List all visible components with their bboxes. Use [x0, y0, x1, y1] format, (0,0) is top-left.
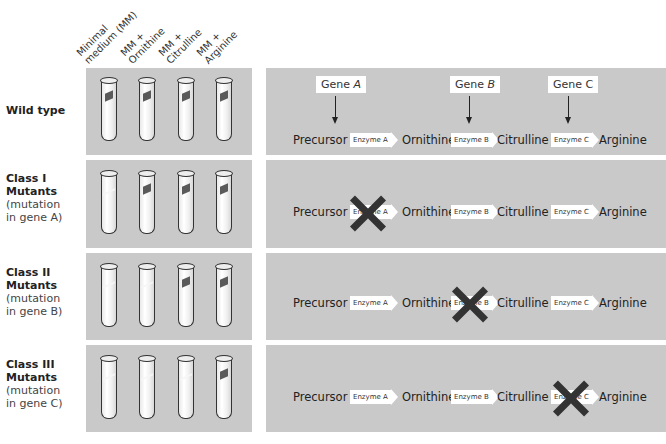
compound-precursor: Precursor: [293, 133, 347, 147]
test-tube-growth: [216, 266, 232, 327]
compound-citrulline: Citrulline: [497, 205, 549, 219]
enzyme-label: Enzyme A: [350, 296, 391, 310]
enzyme-c-arrow: Enzyme C: [551, 296, 599, 310]
test-tube-growth: [139, 80, 155, 141]
compound-citrulline: Citrulline: [497, 296, 549, 310]
compound-ornithine: Ornithine: [402, 205, 455, 219]
compound-precursor: Precursor: [293, 296, 347, 310]
gene-c-label: Gene C: [548, 76, 598, 93]
row-title: Wild type: [6, 104, 84, 117]
test-tube-growth: [101, 80, 117, 141]
enzyme-label: Enzyme C: [551, 296, 592, 310]
arrow-down-icon: [568, 96, 569, 122]
enzyme-a-arrow: Enzyme A: [350, 296, 398, 310]
test-tube-growth: [139, 173, 155, 234]
growth-band: [182, 90, 190, 102]
growth-band: [220, 183, 228, 195]
row-title: Class II: [6, 266, 84, 279]
enzyme-a-arrow: Enzyme A: [350, 390, 398, 404]
test-tube-no-growth: [178, 358, 194, 419]
row-label-class-2: Class II Mutants (mutation in gene B): [6, 266, 84, 318]
medium-column-headers: Minimal medium (MM) MM + Ornithine MM + …: [86, 0, 256, 66]
test-tube-growth: [178, 80, 194, 141]
compound-precursor: Precursor: [293, 390, 347, 404]
row-note: in gene B): [6, 305, 84, 318]
gene-b-label: Gene B: [450, 76, 500, 93]
compound-ornithine: Ornithine: [402, 296, 455, 310]
enzyme-b-arrow: Enzyme B: [451, 133, 499, 147]
compound-citrulline: Citrulline: [497, 390, 549, 404]
enzyme-label: Enzyme B: [451, 390, 492, 404]
tube-panel-class-2: [86, 253, 252, 340]
row-note: in gene A): [6, 211, 84, 224]
enzyme-label: Enzyme A: [350, 133, 391, 147]
test-tube-growth: [216, 80, 232, 141]
arrow-down-icon: [335, 96, 336, 122]
enzyme-a-arrow: Enzyme A: [350, 133, 398, 147]
growth-band: [220, 276, 228, 288]
arrow-down-icon: [469, 96, 470, 122]
tube-panel-class-1: [86, 160, 252, 248]
row-label-class-3: Class III Mutants (mutation in gene C): [6, 358, 84, 410]
pathway-panel-class-1: Precursor Enzyme A Ornithine Enzyme B Ci…: [266, 160, 666, 248]
growth-band: [182, 183, 190, 195]
test-tube-no-growth: [139, 266, 155, 327]
test-tube-growth: [216, 358, 232, 419]
pathway-panel-class-3: Precursor Enzyme A Ornithine Enzyme B Ci…: [266, 345, 666, 432]
compound-arginine: Arginine: [599, 296, 647, 310]
pathway-panel-class-2: Precursor Enzyme A Ornithine Enzyme B Ci…: [266, 253, 666, 340]
gene-letter: A: [354, 78, 362, 91]
gene-prefix: Gene: [321, 78, 354, 91]
enzyme-label: Enzyme C: [551, 205, 592, 219]
compound-arginine: Arginine: [599, 390, 647, 404]
gene-prefix: Gene: [455, 78, 488, 91]
tube-panel-wild-type: [86, 68, 252, 155]
row-subtitle: Mutants: [6, 279, 84, 292]
gene-letter: B: [488, 78, 496, 91]
row-title: Class III: [6, 358, 84, 371]
test-tube-growth: [216, 173, 232, 234]
row-note: (mutation: [6, 198, 84, 211]
enzyme-label: Enzyme A: [350, 390, 391, 404]
enzyme-label: Enzyme B: [451, 133, 492, 147]
row-subtitle: Mutants: [6, 185, 84, 198]
growth-band: [220, 90, 228, 102]
enzyme-b-arrow: Enzyme B: [451, 390, 499, 404]
pathway-panel-wild-type: Gene A Gene B Gene C Precursor Enzyme A …: [266, 68, 666, 155]
growth-band: [143, 183, 151, 195]
growth-band: [105, 90, 113, 102]
compound-citrulline: Citrulline: [497, 133, 549, 147]
row-label-wild-type: Wild type: [6, 104, 84, 117]
blocked-x-icon: [553, 380, 589, 416]
row-title: Class I: [6, 172, 84, 185]
compound-precursor: Precursor: [293, 205, 347, 219]
enzyme-label: Enzyme B: [451, 205, 492, 219]
enzyme-label: Enzyme C: [551, 133, 592, 147]
compound-arginine: Arginine: [599, 133, 647, 147]
test-tube-no-growth: [101, 173, 117, 234]
test-tube-no-growth: [139, 358, 155, 419]
gene-prefix: Gene: [553, 78, 586, 91]
gene-letter: C: [586, 78, 594, 91]
enzyme-b-arrow: Enzyme B: [451, 205, 499, 219]
test-tube-growth: [178, 266, 194, 327]
blocked-x-icon: [452, 286, 488, 322]
enzyme-c-arrow: Enzyme C: [551, 205, 599, 219]
growth-band: [220, 368, 228, 380]
test-tube-no-growth: [101, 266, 117, 327]
growth-band: [143, 90, 151, 102]
growth-band: [182, 276, 190, 288]
row-note: (mutation: [6, 384, 84, 397]
tube-panel-class-3: [86, 345, 252, 432]
blocked-x-icon: [350, 195, 386, 231]
compound-arginine: Arginine: [599, 205, 647, 219]
gene-a-label: Gene A: [316, 76, 366, 93]
row-label-class-1: Class I Mutants (mutation in gene A): [6, 172, 84, 224]
column-header-citrulline: MM + Citrulline: [156, 19, 203, 66]
compound-ornithine: Ornithine: [402, 390, 455, 404]
column-header-arginine: MM + Arginine: [194, 21, 239, 66]
test-tube-no-growth: [101, 358, 117, 419]
compound-ornithine: Ornithine: [402, 133, 455, 147]
test-tube-growth: [178, 173, 194, 234]
row-note: (mutation: [6, 292, 84, 305]
